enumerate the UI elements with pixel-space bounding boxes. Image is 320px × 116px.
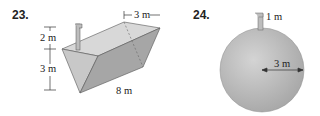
figure-23-number: 23. <box>12 8 29 22</box>
top-width-label-23: 3 m <box>134 9 150 20</box>
figure-24-number: 24. <box>193 8 210 22</box>
spout-height-label-23: 2 m <box>40 32 56 43</box>
spout-height-label-24: 1 m <box>266 11 282 22</box>
prism-tank <box>62 22 160 93</box>
length-label-23: 8 m <box>116 85 132 96</box>
radius-label-24: 3 m <box>274 58 290 69</box>
sphere-tank <box>220 13 304 112</box>
depth-label-23: 3 m <box>40 63 56 74</box>
